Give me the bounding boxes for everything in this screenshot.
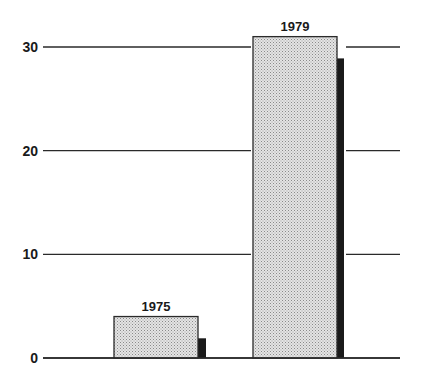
y-tick-label-10: 10 — [22, 246, 38, 262]
bars — [43, 35, 400, 358]
gridlines — [43, 47, 400, 358]
y-tick-label-20: 20 — [22, 143, 38, 159]
bar-label-1979: 1979 — [281, 19, 310, 34]
bar-secondary-1979 — [337, 58, 344, 358]
bar-secondary-1975 — [198, 338, 206, 358]
y-tick-label-0: 0 — [30, 350, 38, 366]
bar-primary-1979 — [253, 37, 337, 358]
bar-chart: 0102030 19751979 — [0, 0, 421, 377]
y-tick-label-30: 30 — [22, 39, 38, 55]
y-axis-tick-labels: 0102030 — [22, 39, 38, 366]
bar-primary-1975 — [114, 317, 198, 358]
bar-label-1975: 1975 — [142, 299, 171, 314]
